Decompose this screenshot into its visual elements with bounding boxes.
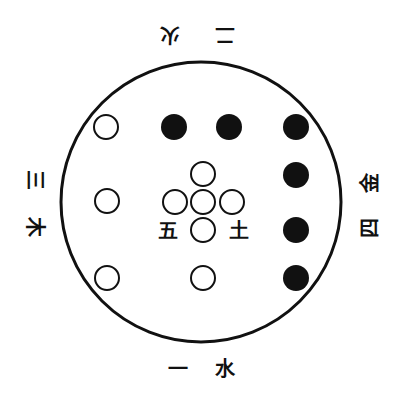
filled-dot (161, 114, 187, 140)
filled-dot (283, 265, 309, 291)
center-hollow-dot (163, 190, 187, 214)
hollow-dot (94, 115, 118, 139)
bottom-number-label: 一 (166, 357, 190, 381)
bottom-element-label: 水 (213, 357, 237, 381)
top-element-label: 火 (158, 23, 182, 47)
left-number-label: 三 (23, 168, 47, 192)
center-hollow-dot (191, 190, 215, 214)
hetu-diagram (0, 0, 404, 402)
hollow-dot (95, 266, 119, 290)
right-number-label: 四 (358, 216, 382, 240)
hollow-dot (95, 189, 119, 213)
filled-dot (216, 114, 242, 140)
filled-dot (283, 162, 309, 188)
center-hollow-dot (191, 162, 215, 186)
center-hollow-dot (220, 190, 244, 214)
hollow-dot (191, 266, 215, 290)
center-hollow-dot (191, 218, 215, 242)
filled-dot (283, 217, 309, 243)
center-number-label: 五 (156, 219, 180, 243)
left-element-label: 木 (23, 215, 47, 239)
center-element-label: 土 (227, 219, 251, 243)
top-number-label: 二 (213, 23, 237, 47)
right-element-label: 金 (358, 171, 382, 195)
filled-dot (283, 114, 309, 140)
